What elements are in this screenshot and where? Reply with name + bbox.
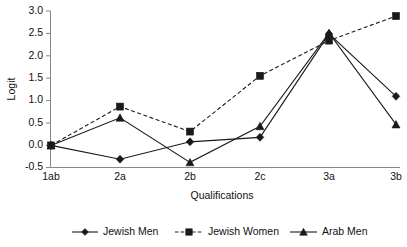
data-point-jewish-women-2b	[187, 128, 194, 135]
y-tick-label-3-0: 3.0	[28, 4, 43, 16]
x-tick-label-3a: 3a	[323, 170, 335, 182]
x-tick-label-2b: 2b	[184, 170, 196, 182]
y-tick-label-2-0: 2.0	[28, 49, 43, 61]
data-point-jewish-women-2a	[117, 103, 124, 110]
x-tick-label-3b: 3b	[390, 170, 402, 182]
legend-marker-diamond-icon	[82, 229, 89, 236]
data-point-jewish-men-2c	[256, 133, 264, 141]
data-point-jewish-women-3b	[393, 13, 400, 20]
data-point-jewish-women-2c	[257, 72, 264, 79]
legend-marker-square-icon	[186, 229, 192, 235]
x-tick-label-1ab: 1ab	[42, 170, 60, 182]
x-tick-label-2a: 2a	[114, 170, 126, 182]
legend-label-jewish-women: Jewish Women	[208, 225, 279, 237]
data-point-jewish-women-3a	[326, 37, 333, 44]
x-tick-label-2c: 2c	[254, 170, 265, 182]
data-point-arab-men-3b	[392, 121, 400, 128]
chart-legend: Jewish Men Jewish Women Arab Men	[72, 225, 368, 237]
data-point-jewish-men-2a	[116, 155, 124, 163]
y-tick-label-1-5: 1.5	[28, 71, 43, 83]
legend-label-arab-men: Arab Men	[322, 225, 368, 237]
y-axis-title: Logit	[5, 78, 17, 101]
y-tick-label-neg-0-5: -0.5	[25, 160, 43, 172]
data-point-jewish-men-2b	[186, 138, 194, 146]
series-line-arab-men	[51, 33, 396, 162]
data-point-arab-men-2c	[256, 122, 264, 129]
line-chart: 3.0 2.5 2.0 1.5 1.0 0.5 0.0 -0.5 Logit 1…	[0, 0, 407, 247]
y-tick-label-0-0: 0.0	[28, 138, 43, 150]
chart-container: 3.0 2.5 2.0 1.5 1.0 0.5 0.0 -0.5 Logit 1…	[0, 0, 407, 247]
data-point-arab-men-2b	[186, 158, 194, 165]
series-line-jewish-men	[51, 34, 396, 159]
y-tick-label-1-0: 1.0	[28, 93, 43, 105]
y-tick-label-0-5: 0.5	[28, 116, 43, 128]
legend-label-jewish-men: Jewish Men	[103, 225, 159, 237]
x-axis-title: Qualifications	[190, 189, 253, 201]
data-point-arab-men-2a	[116, 114, 124, 121]
series-layer	[47, 13, 400, 166]
series-line-jewish-women	[51, 16, 396, 145]
y-tick-label-2-5: 2.5	[28, 26, 43, 38]
